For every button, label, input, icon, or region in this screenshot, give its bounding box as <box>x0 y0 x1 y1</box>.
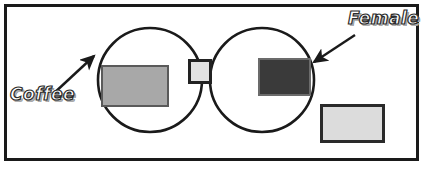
region-coffee-only <box>101 65 169 107</box>
label-female: Female <box>348 8 419 28</box>
label-coffee: Coffee <box>10 84 75 104</box>
region-intersection <box>188 59 212 84</box>
female-arrow <box>314 35 355 62</box>
region-female-only <box>258 58 311 96</box>
venn-diagram-canvas: Coffee Female <box>0 0 431 170</box>
region-outside <box>320 104 385 143</box>
